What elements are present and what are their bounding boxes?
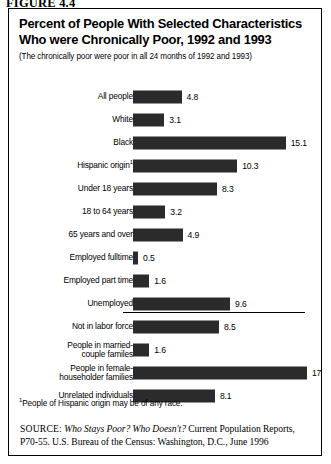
source-citation: SOURCE: Who Stays Poor? Who Doesn't? Cur… [20, 423, 312, 448]
bar [133, 205, 165, 218]
chart-footnote: 1People of Hispanic origin may be of any… [19, 399, 309, 409]
chart-row: Black15.1 [19, 131, 315, 154]
bar-value-label: 10.3 [242, 161, 258, 171]
bar [133, 136, 286, 149]
bar-category-label: Hispanic origin1 [77, 161, 133, 171]
chart-row: Employed fulltime0.5 [19, 246, 315, 269]
bar [133, 274, 149, 287]
figure-container: FIGURE 4.4 Percent of People With Select… [0, 0, 331, 464]
bar-value-label: 17.2 [312, 368, 322, 378]
bar [133, 366, 307, 379]
chart-row: Hispanic origin110.3 [19, 154, 315, 177]
source-publication-title: Who Stays Poor? Who Doesn't? [64, 423, 186, 434]
chart-row: 18 to 64 years3.2 [19, 200, 315, 223]
bar [133, 90, 182, 103]
bar-value-label: 8.3 [222, 184, 234, 194]
footnote-text: People of Hispanic origin may be of any … [22, 399, 182, 408]
bar-category-label: Employed fulltime [69, 253, 133, 263]
bar-category-label: White [112, 115, 133, 125]
bar [133, 320, 219, 333]
chart-row: 65 years and over4.9 [19, 223, 315, 246]
bar [133, 297, 230, 310]
bar-value-label: 3.2 [170, 207, 182, 217]
bar-value-label: 3.1 [169, 115, 181, 125]
bar-value-label: 4.9 [188, 230, 200, 240]
bar-value-label: 9.6 [235, 299, 247, 309]
bar-category-label: All people [98, 92, 133, 102]
bar-category-label: Black [113, 138, 133, 148]
chart-row: Not in labor force8.5 [19, 315, 315, 338]
page-title: Percent of People With Selected Characte… [19, 16, 303, 47]
bar-category-label: Employed part time [64, 276, 133, 286]
bar-category-label: Under 18 years [78, 184, 133, 194]
chart-baseline-axis [123, 312, 305, 313]
chart-row: Under 18 years8.3 [19, 177, 315, 200]
figure-frame: Percent of People With Selected Characte… [8, 8, 322, 456]
bar-category-label: People in female-householder families [41, 363, 133, 382]
bar [133, 251, 138, 264]
bar-category-label: 65 years and over [69, 230, 134, 240]
chart-subtitle: (The chronically poor were poor in all 2… [19, 51, 304, 62]
source-label: SOURCE: [20, 423, 62, 434]
chart-row: All people4.8 [19, 85, 315, 108]
bar-value-label: 4.8 [187, 92, 199, 102]
bar-value-label: 1.6 [154, 276, 166, 286]
bar [133, 159, 237, 172]
bar [133, 182, 217, 195]
chart-row: White3.1 [19, 108, 315, 131]
bar [133, 343, 149, 356]
figure-header: Percent of People With Selected Characte… [19, 16, 313, 62]
chart-row: Employed part time1.6 [19, 269, 315, 292]
bar-category-label: 18 to 64 years [82, 207, 133, 217]
bar-category-label: People in married-couple familes [41, 340, 133, 359]
bar [133, 113, 164, 126]
chart-row: People in female-householder families17.… [19, 361, 315, 384]
bar-category-label: Not in labor force [72, 322, 133, 332]
bar-value-label: 8.5 [224, 322, 236, 332]
bar-value-label: 15.1 [291, 138, 307, 148]
bar-value-label: 1.6 [154, 345, 166, 355]
bar-category-label: Unemployed [87, 299, 133, 309]
bar [133, 228, 183, 241]
bar-value-label: 0.5 [143, 253, 155, 263]
chart-row: People in married-couple familes1.6 [19, 338, 315, 361]
bar-chart: All people4.8White3.1Black15.1Hispanic o… [19, 85, 315, 390]
